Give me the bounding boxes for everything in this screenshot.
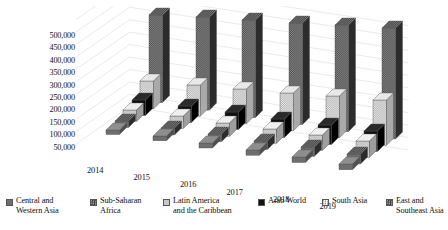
x-axis-tick-2016: 2016 <box>180 180 196 189</box>
legend-swatch-icon <box>258 199 265 206</box>
x-axis-tick-2015: 2015 <box>134 173 150 182</box>
legend-label: Central and Western Asia <box>16 196 59 215</box>
legend-label: East and Southeast Asia <box>396 196 444 215</box>
legend-swatch-icon <box>90 199 97 206</box>
legend-label: Sub-Saharan Africa <box>100 196 141 215</box>
legend-item-arab-world[interactable]: Arab World <box>258 196 326 206</box>
legend-swatch-icon <box>6 199 13 206</box>
x-axis-labels: 201420152016201720182019 <box>0 0 439 192</box>
legend-item-sub-saharan-africa[interactable]: Sub-Saharan Africa <box>90 196 162 215</box>
legend-swatch-icon <box>322 199 329 206</box>
legend-item-central-and-western-asia[interactable]: Central and Western Asia <box>6 196 84 215</box>
legend-label: Arab World <box>268 196 306 206</box>
legend-item-south-asia[interactable]: South Asia <box>322 196 384 206</box>
legend-swatch-icon <box>163 199 170 206</box>
legend-item-east-and-southeast-asia[interactable]: East and Southeast Asia <box>386 196 448 215</box>
legend-label: Latin America and the Caribbean <box>173 196 232 215</box>
x-axis-tick-2014: 2014 <box>87 166 103 175</box>
legend-label: South Asia <box>332 196 367 206</box>
chart-legend: Central and Western AsiaSub-Saharan Afri… <box>0 192 439 230</box>
legend-item-latin-america-and-the-caribbean[interactable]: Latin America and the Caribbean <box>163 196 259 215</box>
legend-swatch-icon <box>386 199 393 206</box>
